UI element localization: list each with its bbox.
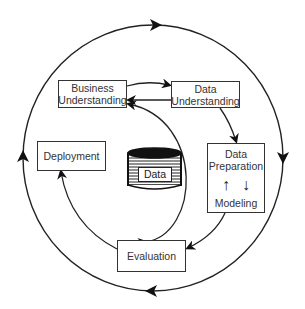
node-deployment-label: Deployment xyxy=(43,150,99,162)
node-modeling: Modeling xyxy=(215,197,258,209)
node-business-understanding-line1: Business xyxy=(71,82,114,94)
data-store-label: Data xyxy=(138,167,172,182)
arrow-du-to-prep xyxy=(220,108,236,141)
prep-modeling-arrows: ↑ ↓ xyxy=(208,179,264,191)
arrow-modeling-to-evaluation xyxy=(188,213,225,248)
node-business-understanding[interactable]: Business Understanding xyxy=(58,80,127,108)
crisp-dm-diagram: Data Business Understanding Data Underst… xyxy=(0,0,305,309)
node-business-understanding-line2: Understanding xyxy=(58,94,126,106)
node-evaluation-label: Evaluation xyxy=(127,250,176,262)
arrow-down-icon: ↓ xyxy=(242,179,250,191)
node-data-preparation-line1: Data xyxy=(209,148,263,160)
arrow-up-icon: ↑ xyxy=(222,179,230,191)
node-data-preparation: Data Preparation xyxy=(209,148,263,172)
node-data-understanding-line1: Data xyxy=(194,83,216,95)
arrow-evaluation-to-deployment xyxy=(61,172,117,249)
node-evaluation[interactable]: Evaluation xyxy=(117,240,186,272)
node-data-understanding-line2: Understanding xyxy=(171,95,239,107)
node-deployment[interactable]: Deployment xyxy=(37,141,106,171)
arrow-bu-to-du xyxy=(127,83,169,86)
node-data-understanding[interactable]: Data Understanding xyxy=(171,81,240,108)
node-data-preparation-modeling[interactable]: Data Preparation ↑ ↓ Modeling xyxy=(207,143,265,213)
node-data-preparation-line2: Preparation xyxy=(209,160,263,172)
